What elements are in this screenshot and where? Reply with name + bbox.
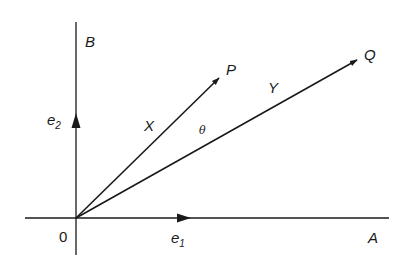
angle-label-theta: θ xyxy=(199,124,206,137)
vector-y xyxy=(76,60,357,218)
vector-x xyxy=(76,78,219,218)
e1-arrow-icon xyxy=(177,214,191,223)
e1-base: e xyxy=(171,229,179,246)
point-label-p: P xyxy=(226,61,236,78)
e2-subscript: 2 xyxy=(54,120,61,131)
axis-label-a: A xyxy=(367,229,378,246)
axis-label-b: B xyxy=(85,33,95,50)
e1-label: e1 xyxy=(171,229,185,249)
e2-base: e xyxy=(47,111,55,128)
origin-label: 0 xyxy=(59,228,67,245)
vector-diagram: B A 0 e2 e1 P Q X Y θ xyxy=(0,0,405,265)
vector-label-x: X xyxy=(143,117,155,134)
e2-arrow-icon xyxy=(72,113,81,128)
e1-subscript: 1 xyxy=(179,238,185,249)
vector-label-y: Y xyxy=(268,79,279,96)
point-label-q: Q xyxy=(364,46,376,63)
e2-label: e2 xyxy=(47,111,61,131)
